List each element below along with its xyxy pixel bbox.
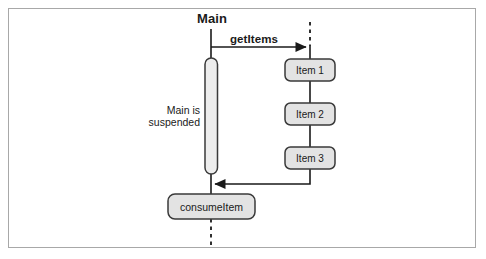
- main-suspended-note: Main issuspended: [124, 105, 200, 129]
- getitems-message-label: getItems: [230, 33, 278, 46]
- suspended-note-line-2: suspended: [149, 116, 200, 128]
- suspended-note-line-1: Main is: [167, 104, 200, 116]
- figure-container: Main getItems Main issuspended Item 1 It…: [0, 0, 486, 259]
- item-box-2-label: Item 2: [285, 109, 335, 120]
- main-lifeline-title: Main: [186, 12, 238, 27]
- main-activation-bar: [205, 58, 218, 174]
- consume-item-label: consumeItem: [168, 201, 255, 213]
- item-box-1-label: Item 1: [285, 65, 335, 76]
- return-arrow: [215, 182, 310, 184]
- item-box-3-label: Item 3: [285, 153, 335, 164]
